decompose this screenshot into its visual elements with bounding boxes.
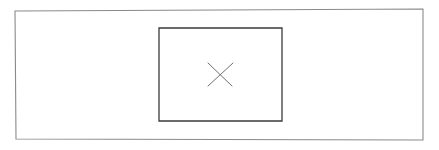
drawing-canvas: [0, 0, 439, 150]
vector-drawing: [0, 0, 439, 150]
